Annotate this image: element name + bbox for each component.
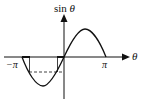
tick-label-pi: π: [102, 60, 107, 70]
x-axis-label: θ: [132, 51, 137, 62]
y-axis-label-var: θ: [70, 2, 75, 14]
x-axis-arrow-icon: [122, 54, 130, 61]
y-axis-arrow-icon: [61, 14, 68, 22]
tick-label-neg-pi: −π: [6, 60, 18, 70]
y-axis-label: sin θ: [54, 3, 75, 14]
y-axis-label-func: sin: [54, 2, 67, 14]
sine-graph: sin θ θ −π π: [0, 0, 144, 101]
